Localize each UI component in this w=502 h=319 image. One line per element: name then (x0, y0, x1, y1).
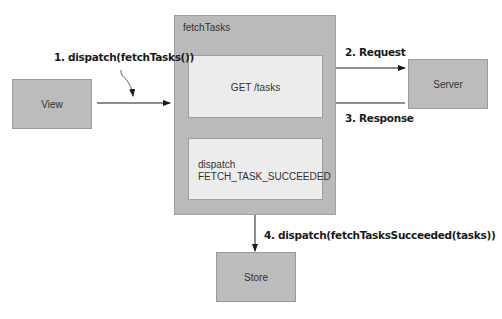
squiggle-pointer-icon (121, 70, 133, 96)
step2-label: 2. Request (345, 46, 406, 58)
dispatch-line2: FETCH_TASK_SUCCEEDED (198, 171, 331, 183)
get-tasks-label: GET /tasks (189, 81, 322, 92)
step4-label: 4. dispatch(fetchTasksSucceeded(tasks)) (264, 229, 495, 241)
store-node: Store (216, 252, 296, 302)
view-label: View (41, 99, 63, 110)
step1-label: 1. dispatch(fetchTasks()) (54, 51, 194, 63)
dispatch-success-box: dispatch FETCH_TASK_SUCCEEDED (188, 138, 323, 200)
fetchtasks-container: fetchTasks GET /tasks dispatch FETCH_TAS… (174, 15, 336, 215)
fetchtasks-title: fetchTasks (183, 22, 230, 33)
get-tasks-box: GET /tasks (188, 55, 323, 118)
view-node: View (12, 79, 92, 129)
dispatch-line1: dispatch (198, 159, 331, 171)
server-node: Server (408, 59, 488, 109)
store-label: Store (244, 272, 268, 283)
step3-label: 3. Response (345, 112, 414, 124)
server-label: Server (433, 79, 462, 90)
